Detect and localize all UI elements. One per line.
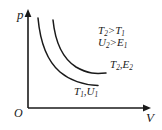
- y-axis-arrowhead-icon: [25, 9, 32, 17]
- x-axis-label: V: [146, 111, 154, 124]
- curve-label-lower-isotherm: T1,U1: [74, 86, 98, 99]
- annotation-energy-lead: U: [98, 36, 106, 48]
- origin-label: O: [14, 107, 23, 119]
- y-axis-label: p: [17, 8, 24, 21]
- pv-diagram: p O V T2>T1 U2>E1 T2,E2 T1,U1: [0, 0, 162, 130]
- curve1-sub2: 1: [94, 91, 98, 99]
- curve-label-upper-isotherm: T2,E2: [110, 59, 133, 72]
- annotation-energy-relation: U2>E1: [98, 37, 127, 50]
- curve-lower-isotherm: [38, 18, 98, 86]
- diagram-canvas: [0, 0, 162, 130]
- annotation-energy-sub2: 1: [124, 42, 128, 50]
- annotation-energy-trail: E: [117, 36, 124, 48]
- annotation-energy-operator: >: [110, 36, 117, 48]
- curve2-sub2: 2: [129, 64, 133, 72]
